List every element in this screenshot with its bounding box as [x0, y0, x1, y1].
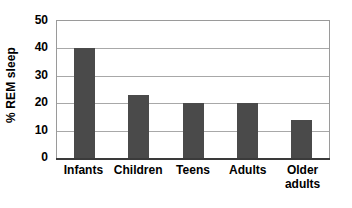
- bar[interactable]: [128, 95, 149, 158]
- plot-area: [56, 20, 330, 159]
- bar[interactable]: [74, 48, 95, 158]
- bar[interactable]: [291, 120, 312, 158]
- y-axis-tick-labels: 01020304050: [22, 20, 52, 157]
- y-axis-title: % REM sleep: [0, 0, 22, 170]
- y-tick-label: 10: [35, 123, 48, 137]
- bar-chart: % REM sleep 01020304050 InfantsChildrenT…: [0, 0, 352, 208]
- x-tick-label: Children: [111, 163, 166, 177]
- y-tick-label: 50: [35, 13, 48, 27]
- x-tick-label: Adults: [220, 163, 275, 177]
- bar-slot: [166, 21, 220, 158]
- x-axis-line: [56, 158, 330, 160]
- y-axis-title-label: % REM sleep: [4, 47, 18, 123]
- bar[interactable]: [237, 103, 258, 158]
- y-tick-label: 40: [35, 40, 48, 54]
- bar-slot: [111, 21, 165, 158]
- bar-slot: [220, 21, 274, 158]
- x-tick-label: Older adults: [275, 163, 330, 191]
- bar-slot: [57, 21, 111, 158]
- bars-group: [57, 21, 329, 158]
- y-tick-label: 30: [35, 68, 48, 82]
- x-tick-label: Infants: [56, 163, 111, 177]
- bar[interactable]: [183, 103, 204, 158]
- x-axis-tick-labels: InfantsChildrenTeensAdultsOlder adults: [56, 163, 330, 191]
- y-tick-label: 20: [35, 95, 48, 109]
- x-tick-label: Teens: [166, 163, 221, 177]
- bar-slot: [275, 21, 329, 158]
- y-tick-label: 0: [41, 150, 48, 164]
